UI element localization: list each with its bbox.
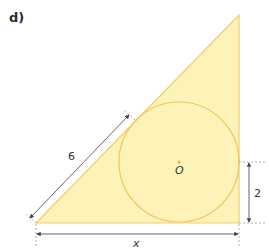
geometry-diagram: O 6 2 x	[0, 0, 269, 251]
dimension-right-2: 2	[239, 162, 265, 223]
center-label: O	[175, 164, 184, 177]
base-label: x	[132, 237, 140, 250]
right-segment-label: 2	[254, 187, 261, 200]
dimension-base-x: x	[36, 224, 239, 250]
hypotenuse-segment-label: 6	[68, 150, 75, 163]
